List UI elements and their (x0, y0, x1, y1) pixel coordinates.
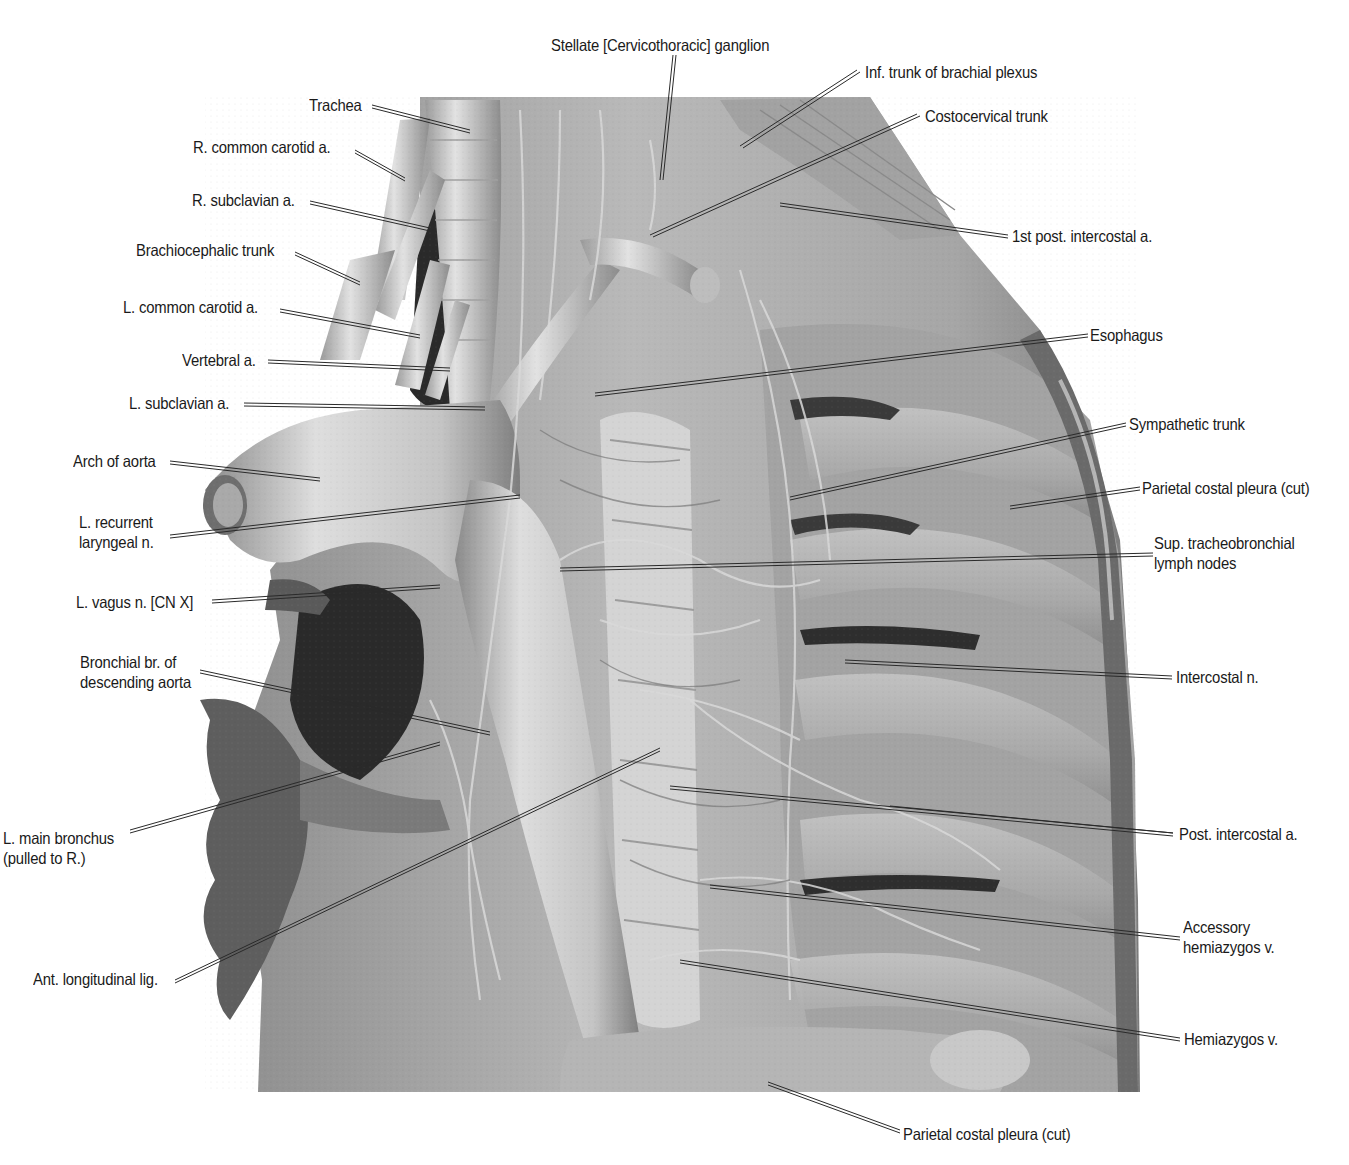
label-l-subclavian: L. subclavian a. (129, 393, 229, 413)
label-esophagus: Esophagus (1090, 325, 1163, 345)
label-arch-of-aorta: Arch of aorta (73, 451, 156, 471)
label-sup-tracheobronchial: Sup. tracheobronchial lymph nodes (1154, 533, 1295, 573)
label-line-1: Accessory (1183, 917, 1274, 937)
label-brachiocephalic-trunk: Brachiocephalic trunk (136, 240, 274, 260)
label-stellate-ganglion: Stellate [Cervicothoracic] ganglion (551, 35, 769, 55)
label-costocervical-trunk: Costocervical trunk (925, 106, 1048, 126)
label-first-post-intercostal: 1st post. intercostal a. (1012, 226, 1152, 246)
label-post-intercostal: Post. intercostal a. (1179, 824, 1298, 844)
label-intercostal-n: Intercostal n. (1176, 667, 1259, 687)
label-line-2: descending aorta (80, 672, 191, 692)
label-line-2: (pulled to R.) (3, 848, 114, 868)
label-vertebral: Vertebral a. (182, 350, 256, 370)
label-line-1: Bronchial br. of (80, 652, 191, 672)
label-parietal-costal-pleura-bottom: Parietal costal pleura (cut) (903, 1124, 1070, 1144)
label-line-2: hemiazygos v. (1183, 937, 1274, 957)
label-r-subclavian: R. subclavian a. (192, 190, 295, 210)
label-parietal-costal-pleura-right: Parietal costal pleura (cut) (1142, 478, 1309, 498)
label-line-2: lymph nodes (1154, 553, 1295, 573)
label-l-vagus: L. vagus n. [CN X] (76, 592, 193, 612)
label-bronchial-br: Bronchial br. of descending aorta (80, 652, 191, 692)
label-l-recurrent-laryngeal: L. recurrent laryngeal n. (79, 512, 154, 552)
label-line-1: L. main bronchus (3, 828, 114, 848)
label-ant-longitudinal-lig: Ant. longitudinal lig. (33, 969, 158, 989)
label-trachea: Trachea (309, 95, 362, 115)
dissection-figure (0, 0, 1349, 1165)
label-sympathetic-trunk: Sympathetic trunk (1129, 414, 1245, 434)
label-line-2: laryngeal n. (79, 532, 154, 552)
label-hemiazygos: Hemiazygos v. (1184, 1029, 1278, 1049)
label-line-1: L. recurrent (79, 512, 154, 532)
label-accessory-hemiazygos: Accessory hemiazygos v. (1183, 917, 1274, 957)
label-inf-trunk-brachial-plexus: Inf. trunk of brachial plexus (865, 62, 1037, 82)
label-line-1: Sup. tracheobronchial (1154, 533, 1295, 553)
label-l-main-bronchus: L. main bronchus (pulled to R.) (3, 828, 114, 868)
label-r-common-carotid: R. common carotid a. (193, 137, 331, 157)
label-l-common-carotid: L. common carotid a. (123, 297, 258, 317)
